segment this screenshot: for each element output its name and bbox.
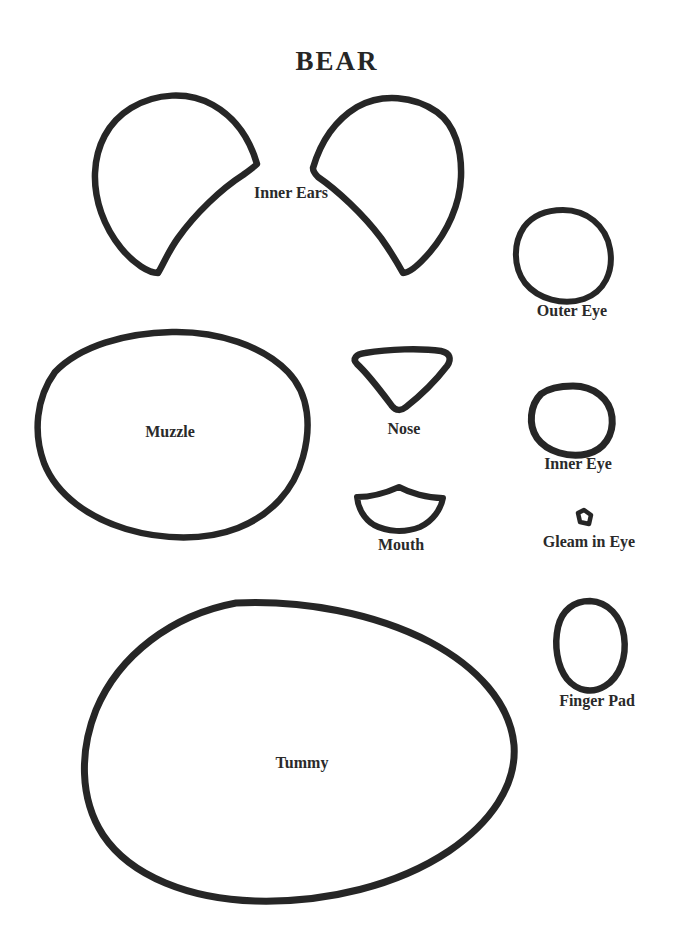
pattern-shapes-canvas [0,0,674,952]
inner-eye-shape [531,386,612,455]
label-inner-eye: Inner Eye [544,456,612,472]
label-gleam-in-eye: Gleam in Eye [543,534,635,550]
label-outer-eye: Outer Eye [537,303,607,319]
label-nose: Nose [388,421,421,437]
label-tummy: Tummy [276,755,329,771]
inner-ear-left-shape [95,96,257,273]
outer-eye-shape [516,210,611,302]
page-title: BEAR [0,46,674,77]
tummy-shape [84,603,514,902]
label-finger-pad: Finger Pad [559,693,635,709]
label-inner-ears: Inner Ears [254,185,328,201]
finger-pad-shape [556,601,624,690]
gleam-in-eye-shape [578,510,591,524]
label-muzzle: Muzzle [145,424,195,440]
nose-shape [355,349,450,410]
inner-ear-right-shape [313,98,461,273]
pattern-sheet: BEAR Inner Ears Outer Eye Muzzle Nose In… [0,0,674,952]
mouth-shape [357,487,443,531]
label-mouth: Mouth [378,537,424,553]
